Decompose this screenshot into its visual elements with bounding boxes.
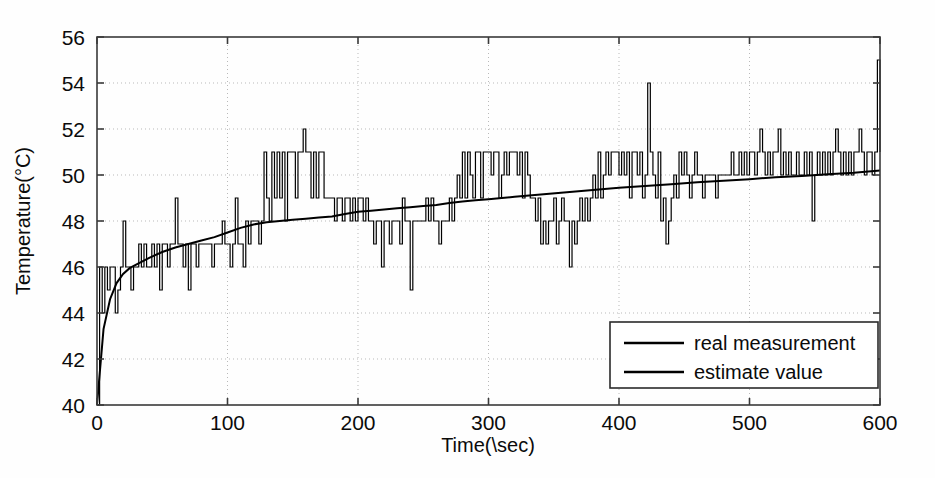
x-tick-label: 600 (862, 411, 897, 434)
legend-label-real-measurement: real measurement (694, 332, 856, 354)
x-tick-label: 400 (601, 411, 636, 434)
y-tick-label: 50 (62, 164, 85, 187)
x-tick-label: 500 (732, 411, 767, 434)
x-tick-label: 0 (91, 411, 103, 434)
chart-background (0, 0, 935, 478)
chart-legend[interactable]: real measurement estimate value (610, 322, 878, 388)
y-tick-label: 40 (62, 394, 85, 417)
legend-label-estimate-value: estimate value (694, 361, 823, 383)
x-axis-label: Time(\sec) (441, 434, 535, 456)
y-tick-label: 52 (62, 118, 85, 141)
y-tick-label: 44 (62, 302, 86, 325)
y-tick-label: 56 (62, 26, 85, 49)
x-tick-label: 300 (471, 411, 506, 434)
y-tick-label: 42 (62, 348, 85, 371)
temperature-estimation-chart: 4042444648505254560100200300400500600 Ti… (0, 0, 935, 478)
x-tick-label: 200 (340, 411, 375, 434)
y-tick-label: 46 (62, 256, 85, 279)
x-tick-label: 100 (210, 411, 245, 434)
chart-figure: 4042444648505254560100200300400500600 Ti… (0, 0, 935, 478)
y-tick-label: 48 (62, 210, 85, 233)
y-axis-label: Temperature(°C) (12, 147, 34, 295)
y-tick-label: 54 (62, 72, 86, 95)
